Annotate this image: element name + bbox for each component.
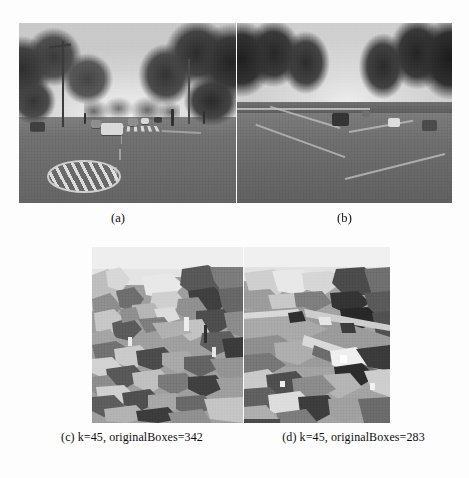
panel-a-image xyxy=(19,23,236,203)
vehicle xyxy=(362,111,371,117)
panel-b-image xyxy=(237,23,452,203)
highway-surface xyxy=(237,113,452,203)
segmentation-map-c xyxy=(92,247,243,423)
left-tree-canopy xyxy=(19,27,119,128)
guardrail xyxy=(237,108,370,110)
vehicle xyxy=(332,113,349,126)
cyclist xyxy=(171,109,174,125)
caption-panel-b: (b) xyxy=(237,211,452,226)
road-roundel-marking xyxy=(47,160,120,193)
figure-panel-d xyxy=(244,247,390,423)
right-tree-canopy xyxy=(132,23,236,131)
figure-root: (a) (b) (c) k=45, originalBoxes=342 (d) … xyxy=(0,0,469,478)
street-light-pole xyxy=(62,41,64,127)
left-tree-row xyxy=(237,23,336,113)
vehicle xyxy=(154,117,163,122)
caption-panel-d: (d) k=45, originalBoxes=283 xyxy=(246,430,461,445)
vehicle xyxy=(30,122,45,131)
vehicle xyxy=(101,123,123,136)
figure-panel-c xyxy=(92,247,243,423)
figure-panel-b xyxy=(237,23,452,203)
vehicle xyxy=(422,120,437,131)
segmentation-map-d xyxy=(244,247,390,423)
caption-panel-c: (c) k=45, originalBoxes=342 xyxy=(18,430,246,445)
lane-marking xyxy=(121,135,123,144)
secondary-pole xyxy=(188,59,190,124)
lane-marking xyxy=(119,149,121,160)
vehicle xyxy=(141,118,150,124)
vehicle xyxy=(91,120,102,128)
pedestrian xyxy=(84,113,86,124)
vehicle xyxy=(128,118,139,125)
vehicle xyxy=(388,118,401,127)
figure-panel-a xyxy=(19,23,236,203)
caption-panel-a: (a) xyxy=(0,211,236,226)
